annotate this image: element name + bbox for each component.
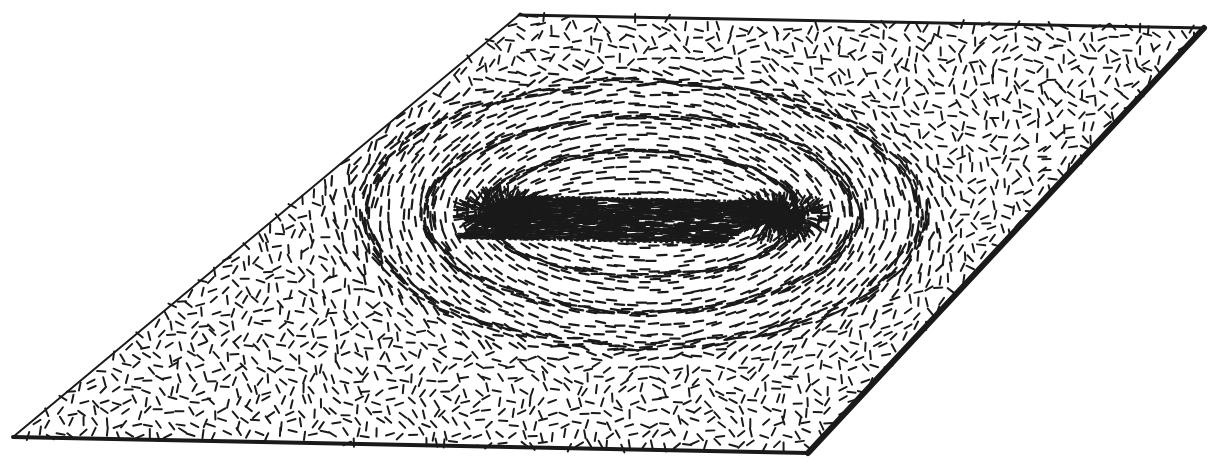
figure-root: Director field on a tilted plane with tw… xyxy=(0,0,1214,472)
director-field-canvas xyxy=(0,0,1214,472)
